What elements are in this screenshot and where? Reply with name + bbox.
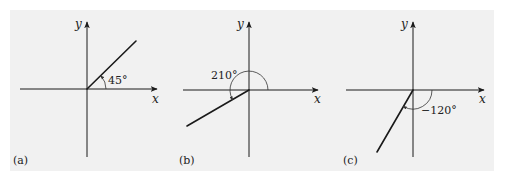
angle-label: 210° [211, 69, 238, 82]
angle-label: −120° [421, 104, 457, 117]
x-axis-label: x [314, 92, 321, 106]
panel-label: (c) [343, 154, 358, 167]
x-axis-label: x [152, 92, 159, 106]
x-axis-label: x [479, 92, 486, 106]
angle-label: 45° [108, 74, 128, 87]
y-axis-label: y [236, 17, 244, 31]
panel-label: (b) [179, 154, 195, 167]
y-axis-label: y [74, 17, 82, 31]
y-axis-label: y [400, 17, 408, 31]
panel-label: (a) [13, 154, 28, 167]
angle-diagram: x y 45° (a) x y 210° (b) x y −120° (c) [0, 0, 507, 181]
